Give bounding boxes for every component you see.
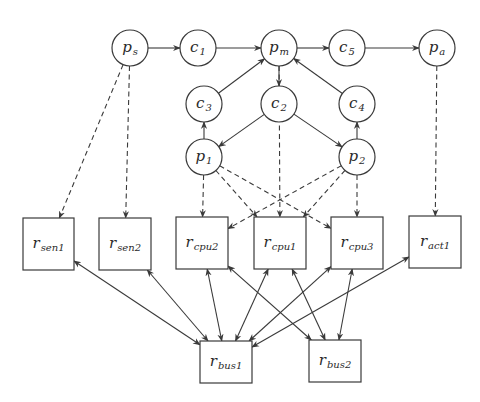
node-r-bus2: rbus2: [309, 340, 361, 382]
node-p-a: pa: [419, 30, 455, 66]
edge-r-cpu2-to-r-bus1: [207, 269, 222, 341]
node-p-m: pm: [261, 30, 297, 66]
node-r-cpu3: rcpu3: [331, 217, 383, 269]
node-p-s: ps: [112, 30, 148, 66]
edge-r-cpu1-to-r-bus1: [236, 269, 269, 341]
node-c4: c4: [339, 86, 375, 122]
node-r-cpu1: rcpu1: [254, 217, 306, 269]
node-c1: c1: [180, 30, 216, 66]
process-resource-diagram: psc1pmc5pac3c2c4p1p2rsen1rsen2rcpu2rcpu1…: [0, 0, 480, 402]
edge-r-act1-to-r-bus1: [252, 257, 409, 347]
node-r-cpu2: rcpu2: [176, 217, 228, 269]
node-p1: p1: [186, 139, 222, 175]
node-r-sen2: rsen2: [99, 218, 151, 270]
edge-r-cpu3-to-r-bus2: [339, 269, 352, 340]
edge-c2-to-p2: [294, 114, 342, 147]
node-c2: c2: [261, 86, 297, 122]
edge-p2-to-r-cpu1: [303, 170, 345, 217]
edge-p-s-to-r-sen2: [126, 66, 130, 218]
edge-r-cpu1-to-r-bus2: [292, 269, 325, 340]
node-r-sen1: rsen1: [23, 218, 74, 270]
edge-c3-to-p-m: [218, 59, 264, 93]
edge-p-a-to-r-act1: [435, 66, 437, 216]
node-r-bus1: rbus1: [200, 341, 252, 383]
edge-p1-to-r-cpu1: [216, 171, 257, 218]
node-c3: c3: [186, 86, 222, 122]
node-r-act1: ract1: [409, 216, 461, 268]
edge-r-cpu3-to-r-bus1: [249, 267, 331, 341]
nodes-layer: psc1pmc5pac3c2c4p1p2rsen1rsen2rcpu2rcpu1…: [23, 30, 461, 383]
edge-p1-to-r-cpu2: [203, 175, 204, 217]
edge-c4-to-p-m: [294, 59, 343, 94]
edge-p-s-to-r-sen1: [59, 65, 123, 218]
node-p2: p2: [339, 139, 375, 175]
node-c5: c5: [329, 30, 365, 66]
edges-layer: [59, 48, 437, 347]
edge-r-sen1-to-r-bus1: [74, 261, 200, 345]
edge-c2-to-p1: [219, 114, 265, 146]
